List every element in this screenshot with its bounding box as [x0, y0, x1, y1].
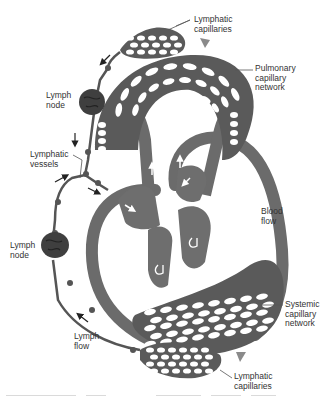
capillary-hole	[230, 112, 238, 118]
label-lymphatic-capillaries-top: Lymphatic capillaries	[194, 15, 232, 34]
capillary-hole	[201, 361, 209, 366]
label-blood-flow: Blood flow	[261, 207, 283, 226]
capillary-hole	[205, 368, 213, 373]
capillary-hole	[183, 354, 191, 359]
blood-flow-arrow-bottom	[236, 352, 246, 362]
capillary-hole	[141, 42, 149, 47]
capillary-hole	[190, 347, 198, 352]
label-lymph-flow: Lymph flow	[74, 332, 99, 351]
capillary-hole	[170, 49, 178, 54]
left-ventricle	[178, 206, 211, 268]
capillary-hole	[161, 368, 169, 373]
capillary-hole	[168, 361, 176, 366]
right-ventricle	[148, 226, 172, 287]
circulation-diagram	[0, 0, 331, 401]
capillary-hole	[157, 347, 165, 352]
capillary-hole	[175, 91, 186, 97]
capillary-hole	[98, 138, 106, 144]
caption-remnant	[6, 394, 326, 398]
capillary-hole	[168, 347, 176, 352]
capillary-hole	[126, 49, 134, 54]
capillary-hole	[130, 42, 138, 47]
label-lymph-node-bottom: Lymph node	[10, 241, 35, 260]
capillary-hole	[98, 146, 106, 152]
capillary-hole	[172, 354, 180, 359]
capillary-hole	[161, 354, 169, 359]
capillary-hole	[150, 368, 158, 373]
capillary-hole	[201, 347, 209, 352]
label-lymph-node-top: Lymph node	[46, 91, 71, 110]
capillary-hole	[230, 139, 238, 145]
pulmonary-capillary-network	[95, 55, 254, 160]
lymph-node-top	[79, 89, 105, 115]
capillary-hole	[150, 354, 158, 359]
left-atrium	[176, 166, 207, 202]
capillary-hole	[148, 49, 156, 54]
capillary-hole	[194, 354, 202, 359]
capillary-hole	[163, 42, 171, 47]
capillary-hole	[159, 49, 167, 54]
capillary-hole	[98, 122, 106, 128]
capillary-hole	[137, 49, 145, 54]
label-lymphatic-capillaries-bottom: Lymphatic capillaries	[234, 372, 272, 391]
capillary-hole	[170, 35, 178, 40]
capillary-hole	[137, 35, 145, 40]
capillary-hole	[157, 361, 165, 366]
capillary-hole	[179, 361, 187, 366]
capillary-hole	[159, 35, 167, 40]
blood-flow-arrow-top	[200, 38, 210, 48]
capillary-hole	[230, 130, 238, 136]
capillary-hole	[126, 35, 134, 40]
lymphatic-capillaries-top	[120, 27, 185, 58]
capillary-hole	[152, 42, 160, 47]
capillary-hole	[190, 361, 198, 366]
capillary-hole	[146, 361, 154, 366]
capillary-hole	[148, 35, 156, 40]
lymph-node-bottom	[41, 232, 69, 258]
capillary-hole	[194, 368, 202, 373]
capillary-hole	[205, 354, 213, 359]
capillary-hole	[183, 368, 191, 373]
capillary-hole	[98, 130, 106, 136]
capillary-hole	[179, 347, 187, 352]
capillary-hole	[230, 121, 238, 127]
capillary-hole	[146, 347, 154, 352]
capillary-hole	[172, 368, 180, 373]
label-pulmonary-capillary-network: Pulmonary capillary network	[255, 64, 296, 93]
capillary-hole	[174, 42, 182, 47]
label-systemic-capillary-network: Systemic capillary network	[285, 300, 319, 329]
label-lymphatic-vessels: Lymphatic vessels	[30, 150, 68, 169]
